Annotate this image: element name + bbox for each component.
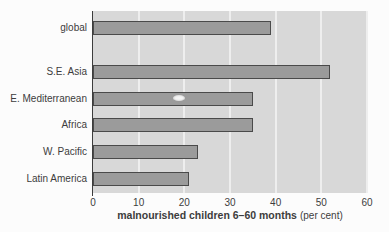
category-label-e-mediterranean: E. Mediterranean [0, 92, 87, 106]
x-tick-label-0: 0 [78, 197, 108, 208]
bar-chart: malnourished children 6–60 months(per ce… [0, 0, 389, 232]
category-label-africa: Africa [0, 118, 87, 132]
gridline-40 [275, 11, 277, 193]
gridline-60 [366, 11, 368, 193]
bar-s-e-asia [93, 65, 330, 79]
x-axis-title-unit: (per cent) [300, 210, 343, 221]
x-tick-label-10: 10 [124, 197, 154, 208]
x-tick-label-40: 40 [261, 197, 291, 208]
x-tick-label-20: 20 [169, 197, 199, 208]
bar-global [93, 21, 271, 35]
category-label-w-pacific: W. Pacific [0, 145, 87, 159]
category-label-global: global [0, 21, 87, 35]
x-tick-label-30: 30 [215, 197, 245, 208]
bar-latin-america [93, 172, 189, 186]
x-tick-label-60: 60 [352, 197, 382, 208]
bar-africa [93, 118, 253, 132]
category-label-s-e-asia: S.E. Asia [0, 65, 87, 79]
bar-w-pacific [93, 145, 198, 159]
x-axis-title: malnourished children 6–60 months(per ce… [93, 209, 367, 221]
scan-artifact [173, 95, 185, 101]
x-tick-label-50: 50 [306, 197, 336, 208]
category-label-latin-america: Latin America [0, 172, 87, 186]
x-axis-title-main: malnourished children 6–60 months [117, 209, 297, 221]
gridline-50 [320, 11, 322, 193]
y-axis-line [92, 11, 93, 196]
plot-area [93, 11, 367, 193]
